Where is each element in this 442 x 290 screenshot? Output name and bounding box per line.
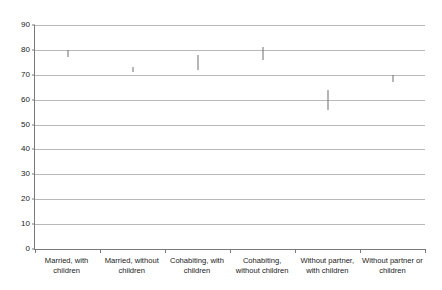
y-axis-tick-label: 50 [21, 121, 30, 129]
gridline [35, 174, 425, 175]
data-point-marker [197, 55, 198, 70]
y-axis-tick-label: 10 [21, 220, 30, 228]
data-point-marker [67, 50, 68, 57]
gridline [35, 224, 425, 225]
x-axis-category-label: Married, without children [99, 256, 164, 288]
gridline [35, 125, 425, 126]
chart-container: 0102030405060708090 Married, with childr… [0, 0, 442, 290]
x-axis-category-label: Without partner or children [360, 256, 425, 288]
x-axis-tick-mark [425, 249, 426, 253]
y-axis-tick-mark [32, 74, 35, 75]
y-axis-tick-label: 70 [21, 71, 30, 79]
plot-area: 0102030405060708090 [34, 25, 425, 250]
y-axis-tick-label: 90 [21, 21, 30, 29]
y-axis-tick-label: 40 [21, 145, 30, 153]
y-axis-tick-label: 0 [26, 245, 30, 253]
y-axis-tick-label: 80 [21, 46, 30, 54]
x-axis-tick-mark [360, 249, 361, 253]
y-axis-tick-label: 30 [21, 170, 30, 178]
y-axis-tick-mark [32, 124, 35, 125]
x-axis-category-label: Cohabiting, without children [230, 256, 295, 288]
data-point-marker [132, 67, 133, 72]
x-axis-category-label: Married, with children [34, 256, 99, 288]
gridline [35, 100, 425, 101]
gridline [35, 149, 425, 150]
gridline [35, 25, 425, 26]
y-axis-tick-label: 60 [21, 96, 30, 104]
x-axis-category-labels: Married, with childrenMarried, without c… [34, 256, 425, 288]
x-axis-category-label: Without partner, with children [295, 256, 360, 288]
gridline [35, 50, 425, 51]
y-axis-tick-mark [32, 149, 35, 150]
y-axis-tick-mark [32, 224, 35, 225]
data-point-marker [392, 75, 393, 82]
x-axis-tick-mark [230, 249, 231, 253]
y-axis-tick-label: 20 [21, 195, 30, 203]
gridline [35, 199, 425, 200]
x-axis-tick-mark [295, 249, 296, 253]
y-axis-tick-mark [32, 49, 35, 50]
data-point-marker [327, 90, 328, 110]
x-axis-tick-mark [35, 249, 36, 253]
y-axis-tick-mark [32, 25, 35, 26]
data-point-marker [262, 47, 263, 59]
x-axis-tick-mark [165, 249, 166, 253]
gridline [35, 75, 425, 76]
x-axis-category-label: Cohabiting, with children [164, 256, 229, 288]
y-axis-tick-mark [32, 199, 35, 200]
x-axis-tick-mark [100, 249, 101, 253]
y-axis-tick-mark [32, 174, 35, 175]
y-axis-tick-mark [32, 99, 35, 100]
